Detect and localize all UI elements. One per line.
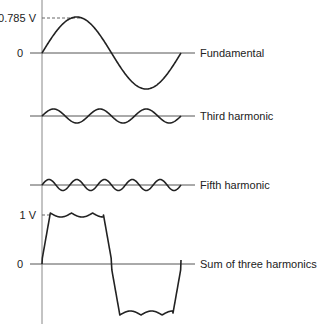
sum-panel: 1 V 0 Sum of three harmonics (17, 209, 317, 315)
third-harmonic-panel: Third harmonic (30, 109, 274, 123)
fifth-harmonic-panel: Fifth harmonic (30, 179, 270, 191)
amplitude-label-0785v: 0.785 V (0, 12, 37, 24)
amplitude-label-1v: 1 V (19, 209, 36, 221)
label-fundamental: Fundamental (200, 47, 264, 59)
harmonics-diagram: 0.785 V 0 Fundamental Third harmonic Fif… (0, 0, 317, 324)
label-fifth-harmonic: Fifth harmonic (200, 179, 270, 191)
label-third-harmonic: Third harmonic (200, 110, 274, 122)
zero-label-fundamental: 0 (17, 47, 23, 59)
zero-label-sum: 0 (17, 258, 23, 270)
label-sum: Sum of three harmonics (200, 258, 317, 270)
fundamental-panel: 0.785 V 0 Fundamental (0, 12, 264, 89)
